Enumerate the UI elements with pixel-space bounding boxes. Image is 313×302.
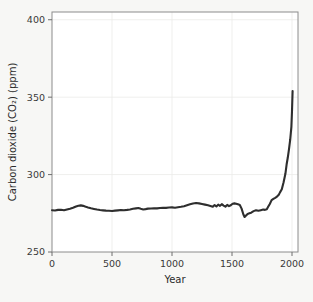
y-tick-label: 250	[27, 246, 45, 257]
y-tick-label: 400	[27, 14, 45, 25]
x-tick-label: 1000	[160, 258, 184, 269]
x-tick-label: 500	[103, 258, 121, 269]
y-tick-label: 300	[27, 169, 45, 180]
y-tick-labels: 250300350400	[27, 14, 45, 257]
x-tick-label: 0	[49, 258, 55, 269]
y-tick-label: 350	[27, 92, 45, 103]
co2-line-chart: 250300350400 0500100015002000 Carbon dio…	[0, 0, 313, 302]
y-axis-title: Carbon dioxide (CO₂) (ppm)	[7, 63, 18, 202]
x-tick-label: 1500	[220, 258, 244, 269]
x-tick-labels: 0500100015002000	[49, 258, 304, 269]
x-axis-title: Year	[163, 274, 186, 285]
chart-figure: 250300350400 0500100015002000 Carbon dio…	[0, 0, 313, 302]
x-tick-label: 2000	[280, 258, 304, 269]
plot-area-background	[52, 12, 298, 252]
